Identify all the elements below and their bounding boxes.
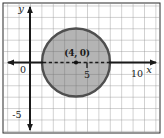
figure-container: (4, 0) y x 0 5 10 -5 (0, 0, 164, 138)
circle-center-point (74, 60, 78, 64)
coordinate-plane: (4, 0) y x 0 5 10 -5 (0, 0, 164, 138)
center-coordinates-label: (4, 0) (64, 48, 90, 59)
x-axis-label: x (146, 64, 152, 75)
y-axis-label: y (17, 3, 24, 14)
tick-label-neg5: -5 (12, 109, 21, 120)
tick-label-10: 10 (131, 68, 143, 79)
origin-label: 0 (20, 64, 26, 75)
tick-label-5: 5 (84, 69, 90, 80)
